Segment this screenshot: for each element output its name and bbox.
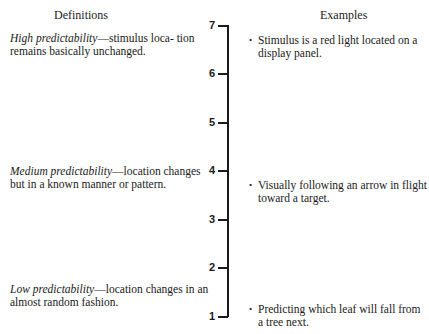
example-medium: • Visually following an arrow in flight …	[258, 179, 428, 205]
scale-label: 6	[205, 68, 215, 79]
scale-label: 4	[205, 165, 215, 176]
definition-high: High predictability—stimulus loca- tion …	[10, 32, 210, 58]
bullet-icon: •	[249, 303, 252, 316]
scale-tick	[218, 170, 228, 172]
definition-medium: Medium predictability—location changes b…	[10, 165, 210, 191]
scale-label: 1	[205, 311, 215, 322]
bullet-icon: •	[249, 34, 252, 47]
example-high: • Stimulus is a red light located on a d…	[258, 34, 428, 60]
scale-label: 3	[205, 214, 215, 225]
scale-label: 5	[205, 117, 215, 128]
definition-term: High predictability	[10, 32, 97, 44]
scale-label: 7	[205, 20, 215, 31]
examples-header: Examples	[320, 8, 367, 23]
definition-term: Medium predictability	[10, 165, 112, 177]
bullet-icon: •	[249, 179, 252, 192]
scale-tick	[218, 316, 228, 318]
example-low: • Predicting which leaf will fall from a…	[258, 303, 428, 329]
scale-tick	[218, 25, 228, 27]
scale-tick	[218, 73, 228, 75]
definition-term: Low predictability	[10, 283, 94, 295]
scale-tick	[218, 219, 228, 221]
scale-tick	[218, 267, 228, 269]
definitions-header: Definitions	[54, 8, 108, 23]
scale-tick	[218, 122, 228, 124]
definition-low: Low predictability—location changes in a…	[10, 283, 210, 309]
scale-label: 2	[205, 262, 215, 273]
